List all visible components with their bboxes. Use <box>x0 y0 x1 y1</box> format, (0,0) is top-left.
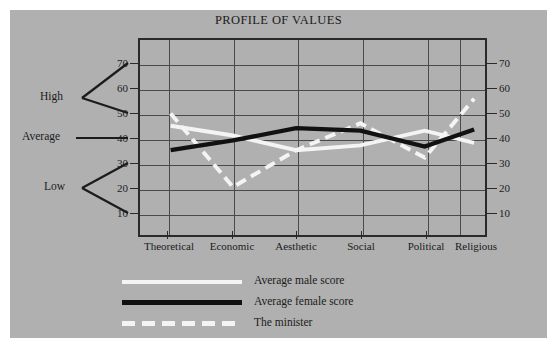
legend-label-minister: The minister <box>254 316 312 328</box>
y-tickmark-left-20 <box>130 188 138 189</box>
annotation-low: Low <box>44 180 65 192</box>
x-tickmark-5 <box>426 231 427 239</box>
y-tickmark-right-70 <box>487 63 497 64</box>
y-tick-left-20: 20 <box>108 183 128 194</box>
y-tick-right-10: 10 <box>499 208 521 219</box>
x-label-political: Political <box>408 240 445 252</box>
legend-label-male: Average male score <box>254 274 344 286</box>
y-tickmark-right-60 <box>487 88 497 89</box>
y-tick-left-70: 70 <box>108 58 128 69</box>
y-tick-left-40: 40 <box>108 133 128 144</box>
x-label-economic: Economic <box>210 240 255 252</box>
figure-inner: PROFILE OF VALUES High Average Low 70 60… <box>10 10 547 338</box>
x-axis-labels: Theoretical Economic Aesthetic Social Po… <box>138 240 487 260</box>
y-tickmark-left-30 <box>130 163 138 164</box>
y-tick-right-60: 60 <box>499 83 521 94</box>
x-label-aesthetic: Aesthetic <box>275 240 317 252</box>
y-tick-left-30: 30 <box>108 158 128 169</box>
x-label-religious: Religious <box>455 240 497 252</box>
y-axis-right-labels: 70 60 50 40 30 20 10 <box>499 38 523 237</box>
plot-area <box>138 38 487 237</box>
y-axis-left-tickmarks <box>128 38 138 237</box>
y-tick-right-40: 40 <box>499 133 521 144</box>
y-tickmark-left-10 <box>130 213 138 214</box>
x-tickmark-2 <box>232 231 233 239</box>
y-tick-right-50: 50 <box>499 108 521 119</box>
y-tick-right-70: 70 <box>499 58 521 69</box>
y-tick-left-60: 60 <box>108 83 128 94</box>
y-tickmark-right-20 <box>487 188 497 189</box>
legend-label-female: Average female score <box>254 295 353 307</box>
y-tickmark-right-50 <box>487 113 497 114</box>
y-tickmark-right-30 <box>487 163 497 164</box>
x-label-social: Social <box>347 240 375 252</box>
legend-swatch-male-icon <box>122 280 242 284</box>
y-tick-left-10: 10 <box>108 208 128 219</box>
legend-item-average-female-score: Average female score <box>122 293 452 314</box>
chart-legend: Average male score Average female score … <box>122 272 452 335</box>
legend-swatch-minister-icon <box>122 321 242 326</box>
legend-item-average-male-score: Average male score <box>122 272 452 293</box>
chart-title: PROFILE OF VALUES <box>10 13 547 28</box>
y-tick-right-30: 30 <box>499 158 521 169</box>
legend-item-the-minister: The minister <box>122 314 452 335</box>
x-tickmark-4 <box>361 231 362 239</box>
series-layer <box>140 40 485 235</box>
y-tickmark-right-10 <box>487 213 497 214</box>
y-tickmark-right-40 <box>487 138 497 139</box>
annotation-average: Average <box>22 130 60 142</box>
legend-swatch-female-icon <box>122 300 242 305</box>
y-tickmark-left-70 <box>130 63 138 64</box>
y-axis-left-labels: 70 60 50 40 30 20 10 <box>106 38 128 237</box>
x-tickmark-3 <box>296 231 297 239</box>
y-axis-right-tickmarks <box>487 38 499 237</box>
y-tick-right-20: 20 <box>499 183 521 194</box>
annotation-high: High <box>40 90 63 102</box>
y-tick-left-50: 50 <box>108 108 128 119</box>
x-label-theoretical: Theoretical <box>144 240 194 252</box>
x-tickmark-1 <box>167 231 168 239</box>
y-tickmark-left-40 <box>130 138 138 139</box>
y-tickmark-left-60 <box>130 88 138 89</box>
y-tickmark-left-50 <box>130 113 138 114</box>
figure-panel: PROFILE OF VALUES High Average Low 70 60… <box>10 10 547 338</box>
